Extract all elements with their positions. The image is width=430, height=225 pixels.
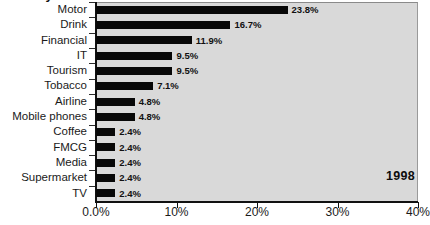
value-tick-label: 0.0% xyxy=(82,206,109,218)
bar-value-label: 11.9% xyxy=(196,36,222,46)
category-label: Media xyxy=(0,155,92,170)
bar-row: 9.5% xyxy=(96,63,418,78)
bar-row: 2.4% xyxy=(96,155,418,170)
bar-value-label: 7.1% xyxy=(157,81,179,91)
bar-value-label: 23.8% xyxy=(292,5,319,15)
bar-row: 4.8% xyxy=(96,94,418,109)
bar xyxy=(96,36,192,44)
bar xyxy=(96,6,288,14)
bar-row: 16.7% xyxy=(96,17,418,32)
category-label: Motor xyxy=(0,2,92,17)
bar-value-label: 2.4% xyxy=(119,158,141,168)
bar-row: 2.4% xyxy=(96,125,418,140)
bar-value-label: 9.5% xyxy=(176,66,198,76)
year-annotation: 1998 xyxy=(386,169,415,183)
bar xyxy=(96,128,115,136)
bar-row: 9.5% xyxy=(96,48,418,63)
bar-row: 2.4% xyxy=(96,186,418,201)
bar-value-label: 16.7% xyxy=(234,20,261,30)
bar-value-label: 4.8% xyxy=(139,112,161,122)
category-label: Mobile phones xyxy=(0,109,92,124)
bar-row: 2.4% xyxy=(96,170,418,185)
bar xyxy=(96,98,135,106)
value-tick-label: 40% xyxy=(406,206,430,218)
bar-row: 4.8% xyxy=(96,109,418,124)
bar-row: 7.1% xyxy=(96,79,418,94)
bar-row: 2.4% xyxy=(96,140,418,155)
category-label: TV xyxy=(0,186,92,201)
category-label: FMCG xyxy=(0,140,92,155)
bar-row: 23.8% xyxy=(96,2,418,17)
category-label: Coffee xyxy=(0,125,92,140)
category-label: Tobacco xyxy=(0,79,92,94)
value-axis-tick-labels: 0.0%10%20%30%40% xyxy=(0,206,425,224)
bar-row: 11.9% xyxy=(96,33,418,48)
bar xyxy=(96,21,230,29)
bar-value-label: 4.8% xyxy=(139,97,161,107)
bar xyxy=(96,159,115,167)
bar xyxy=(96,189,115,197)
bar-value-label: 9.5% xyxy=(176,51,198,61)
category-label: Drink xyxy=(0,17,92,32)
category-label: Tourism xyxy=(0,63,92,78)
value-tick-label: 20% xyxy=(245,206,269,218)
category-label: Supermarket xyxy=(0,170,92,185)
bar-value-label: 2.4% xyxy=(119,189,141,199)
bar xyxy=(96,82,153,90)
bar xyxy=(96,174,115,182)
bar xyxy=(96,67,172,75)
bar-value-label: 2.4% xyxy=(119,127,141,137)
category-label: IT xyxy=(0,48,92,63)
bar-value-label: 2.4% xyxy=(119,173,141,183)
category-label: Airline xyxy=(0,94,92,109)
bar xyxy=(96,113,135,121)
value-tick-label: 10% xyxy=(164,206,188,218)
value-tick-label: 30% xyxy=(325,206,349,218)
category-axis-labels: Motor Drink Financial IT Tourism Tobacco… xyxy=(0,2,92,201)
bar xyxy=(96,143,115,151)
bar xyxy=(96,52,172,60)
category-label: Financial xyxy=(0,33,92,48)
bar-series: 23.8% 16.7% 11.9% 9.5% 9.5% 7.1% 4.8% 4 xyxy=(96,2,418,201)
bar-value-label: 2.4% xyxy=(119,143,141,153)
